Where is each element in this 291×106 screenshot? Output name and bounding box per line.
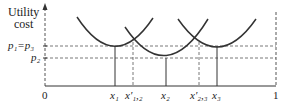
x-tick-label-x12: x′₁,₂ xyxy=(125,90,143,101)
x-tick-label-x1: x₁ xyxy=(110,90,119,101)
y-axis-arrow-icon xyxy=(43,3,48,10)
x-tick-label-x2: x₂ xyxy=(161,90,170,101)
y-axis-label-cost: cost xyxy=(14,18,33,30)
x-tick-label-0: 0 xyxy=(42,90,48,101)
x-tick-label-1: 1 xyxy=(273,90,279,101)
y-tick-label-p2: p₂ xyxy=(31,52,40,63)
utility-curve-1 xyxy=(77,17,153,46)
x-tick-label-x23: x′₂,₃ xyxy=(190,90,208,101)
y-tick-label-p1-p3: p₁=p₃ xyxy=(8,40,34,51)
x-tick-label-x3: x₃ xyxy=(212,90,221,101)
